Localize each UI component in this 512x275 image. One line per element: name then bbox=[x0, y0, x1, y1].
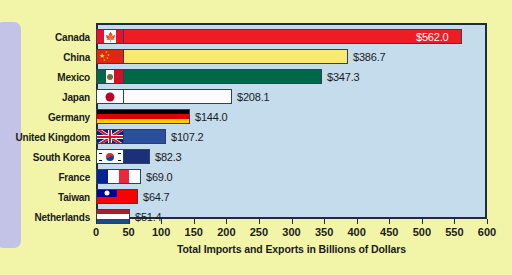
bar-united-kingdom[interactable] bbox=[96, 129, 166, 144]
bar-rows: Canada 🍁 $562.0 China ★★ ★★★ $386.7 bbox=[96, 23, 487, 219]
value-label-canada: $562.0 bbox=[416, 31, 448, 43]
bar-china[interactable]: ★★ ★★★ bbox=[96, 49, 348, 64]
bar-canada[interactable]: 🍁 bbox=[96, 29, 462, 44]
x-tick-label-0: 0 bbox=[93, 226, 99, 238]
x-tick-350 bbox=[324, 219, 325, 224]
x-tick-600 bbox=[487, 219, 488, 224]
x-tick-300 bbox=[292, 219, 293, 224]
category-label-mexico: Mexico bbox=[57, 71, 90, 82]
x-tick-label-550: 550 bbox=[445, 226, 463, 238]
x-tick-50 bbox=[129, 219, 130, 224]
france-flag-icon bbox=[97, 170, 140, 183]
x-tick-label-50: 50 bbox=[122, 226, 134, 238]
value-label-china: $386.7 bbox=[353, 51, 385, 63]
category-label-united-kingdom: United Kingdom bbox=[16, 131, 90, 142]
south-korea-flag-icon bbox=[97, 150, 124, 163]
canada-flag-icon: 🍁 bbox=[97, 30, 124, 43]
bar-japan[interactable] bbox=[96, 89, 232, 104]
x-tick-450 bbox=[389, 219, 390, 224]
category-label-japan: Japan bbox=[62, 91, 90, 102]
x-tick-100 bbox=[161, 219, 162, 224]
x-tick-label-500: 500 bbox=[413, 226, 431, 238]
value-label-mexico: $347.3 bbox=[327, 71, 359, 83]
value-label-japan: $208.1 bbox=[237, 91, 269, 103]
category-label-germany: Germany bbox=[48, 111, 90, 122]
x-axis-ticks bbox=[96, 219, 487, 226]
x-tick-550 bbox=[454, 219, 455, 224]
category-label-canada: Canada bbox=[55, 31, 90, 42]
value-label-france: $69.0 bbox=[146, 171, 173, 183]
bar-mexico[interactable] bbox=[96, 69, 322, 84]
category-label-china: China bbox=[63, 51, 90, 62]
x-tick-label-250: 250 bbox=[250, 226, 268, 238]
x-tick-label-450: 450 bbox=[380, 226, 398, 238]
category-label-netherlands: Netherlands bbox=[34, 211, 90, 222]
category-label-south-korea: South Korea bbox=[33, 151, 90, 162]
bar-france[interactable] bbox=[96, 169, 141, 184]
x-tick-200 bbox=[226, 219, 227, 224]
x-tick-0 bbox=[96, 219, 97, 224]
trade-bar-chart: Canada 🍁 $562.0 China ★★ ★★★ $386.7 bbox=[0, 0, 512, 275]
category-label-france: France bbox=[58, 171, 90, 182]
value-label-south-korea: $82.3 bbox=[155, 151, 182, 163]
uk-flag-icon bbox=[97, 130, 124, 143]
bar-south-korea[interactable] bbox=[96, 149, 150, 164]
bar-germany[interactable] bbox=[96, 109, 190, 124]
x-axis-tick-labels: 050100150200250300350400450500550600 bbox=[96, 226, 487, 240]
category-label-taiwan: Taiwan bbox=[58, 191, 90, 202]
x-tick-label-600: 600 bbox=[478, 226, 496, 238]
china-flag-icon: ★★ ★★★ bbox=[97, 50, 124, 63]
value-label-united-kingdom: $107.2 bbox=[171, 131, 203, 143]
x-tick-400 bbox=[357, 219, 358, 224]
x-axis-title: Total Imports and Exports in Billions of… bbox=[96, 243, 487, 255]
value-label-germany: $144.0 bbox=[195, 111, 227, 123]
x-tick-250 bbox=[259, 219, 260, 224]
x-tick-label-400: 400 bbox=[347, 226, 365, 238]
germany-flag-icon bbox=[97, 110, 189, 123]
x-tick-label-350: 350 bbox=[315, 226, 333, 238]
x-tick-500 bbox=[422, 219, 423, 224]
x-tick-label-300: 300 bbox=[282, 226, 300, 238]
value-label-taiwan: $64.7 bbox=[143, 191, 170, 203]
x-tick-label-100: 100 bbox=[152, 226, 170, 238]
bar-taiwan[interactable] bbox=[96, 189, 138, 204]
mexico-flag-icon bbox=[97, 70, 124, 83]
x-tick-150 bbox=[194, 219, 195, 224]
japan-flag-icon bbox=[97, 90, 124, 103]
x-tick-label-150: 150 bbox=[185, 226, 203, 238]
x-tick-label-200: 200 bbox=[217, 226, 235, 238]
